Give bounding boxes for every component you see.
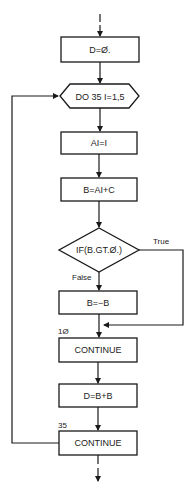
continue-10-text: CONTINUE — [75, 345, 122, 355]
init-box: D=Ø. — [61, 37, 139, 62]
decision-text: IF(B.GT.Ø.) — [76, 245, 122, 255]
assign-ai-text: AI=I — [91, 138, 107, 148]
negate-b-box: B=−B — [59, 291, 137, 314]
assign-d-text: D=B+B — [83, 391, 112, 401]
assign-b-box: B=AI+C — [61, 178, 137, 201]
false-branch: False — [72, 272, 99, 290]
assign-b-text: B=AI+C — [83, 185, 115, 195]
continue-10-box: 1Ø CONTINUE — [58, 327, 137, 362]
init-text: D=Ø. — [89, 45, 110, 55]
negate-b-text: B=−B — [87, 298, 110, 308]
false-label: False — [72, 273, 92, 282]
decision-diamond: IF(B.GT.Ø.) — [59, 228, 139, 272]
flowchart-canvas: D=Ø. DO 35 I=1,5 AI=I B=AI+C IF(B.GT.Ø.)… — [0, 0, 195, 500]
assign-ai-box: AI=I — [61, 132, 137, 154]
continue-10-label: 1Ø — [58, 327, 69, 336]
assign-d-box: D=B+B — [59, 384, 137, 407]
true-label: True — [153, 237, 170, 246]
loop-start-text: DO 35 I=1,5 — [76, 92, 125, 102]
continue-35-label: 35 — [58, 421, 67, 430]
continue-35-text: CONTINUE — [75, 438, 122, 448]
loop-back-arrow — [12, 96, 59, 443]
loop-start-hexagon: DO 35 I=1,5 — [60, 84, 139, 108]
